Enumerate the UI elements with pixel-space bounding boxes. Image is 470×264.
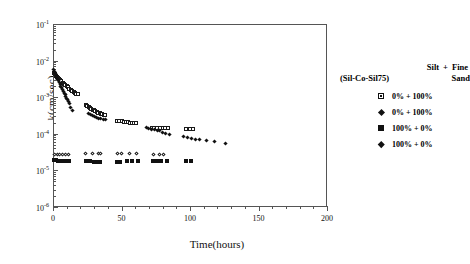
legend-item-2[interactable]: 100% + 0% <box>340 124 470 133</box>
legend-item-2-label: 100% + 0% <box>392 124 433 133</box>
y-tick-minor <box>53 174 56 175</box>
y-tick-label: 10-4 <box>36 129 49 140</box>
data-point-series-2 <box>189 159 193 163</box>
x-tick-major <box>190 206 191 211</box>
x-tick-minor <box>217 206 218 209</box>
data-point-series-2 <box>165 159 169 163</box>
y-tick-minor <box>53 185 56 186</box>
y-tick-minor <box>53 190 56 191</box>
x-tick-minor <box>313 206 314 209</box>
y-tick-label: 10-1 <box>36 19 49 30</box>
legend-header-row-2: (Sil-Co-Sil75) Sand <box>340 73 470 84</box>
legend-item-0-label: 0% + 100% <box>392 92 433 101</box>
filled-square-marker-icon <box>378 125 385 132</box>
x-tick-minor <box>204 206 205 209</box>
legend-item-3[interactable]: 100% + 0% <box>340 140 470 149</box>
y-tick-minor <box>53 148 56 149</box>
y-tick-label: 10-6 <box>36 202 49 213</box>
y-tick-minor <box>53 35 56 36</box>
data-point-series-2 <box>130 159 134 163</box>
data-point-series-3 <box>151 152 155 156</box>
y-tick-minor <box>53 62 56 63</box>
legend-item-1[interactable]: 0% + 100% <box>340 108 470 117</box>
data-point-series-2 <box>67 159 71 163</box>
x-tick-minor <box>272 206 273 209</box>
legend-item-1-label: 0% + 100% <box>392 108 433 117</box>
y-tick-minor <box>53 30 56 31</box>
y-tick-minor <box>53 43 56 44</box>
x-tick-minor <box>135 206 136 209</box>
x-tick-minor <box>149 206 150 209</box>
filled-diamond-small-marker-icon <box>378 141 385 148</box>
data-point-series-0 <box>134 121 138 125</box>
legend-header: Silt + Fine (Sil-Co-Sil75) Sand <box>340 62 470 85</box>
x-tick-minor <box>80 206 81 209</box>
y-tick-minor <box>53 176 56 177</box>
y-tick-minor <box>53 28 56 29</box>
y-tick-minor <box>53 108 56 109</box>
x-tick-major <box>53 206 54 211</box>
y-tick-minor <box>53 179 56 180</box>
data-point-series-0 <box>76 92 80 96</box>
data-point-series-2 <box>98 160 102 164</box>
y-tick-label: 10-2 <box>36 56 49 67</box>
legend-item-0[interactable]: 0% + 100% <box>340 92 470 101</box>
data-point-series-3 <box>66 152 70 156</box>
x-tick-minor <box>231 206 232 209</box>
x-tick-label: 0 <box>33 215 73 223</box>
y-tick-minor <box>53 181 56 182</box>
y-tick-minor <box>53 64 56 65</box>
x-tick-minor <box>176 206 177 209</box>
x-tick-minor <box>94 206 95 209</box>
legend-header-plus: + <box>443 62 448 73</box>
x-tick-minor <box>163 206 164 209</box>
data-point-series-2 <box>125 159 129 163</box>
legend-header-row-1: Silt + Fine <box>340 62 470 73</box>
x-tick-major <box>327 206 328 211</box>
y-tick-minor <box>53 39 56 40</box>
x-tick-minor <box>245 206 246 209</box>
y-tick-minor <box>53 103 56 104</box>
y-tick-minor <box>53 116 56 117</box>
y-tick-minor <box>53 145 56 146</box>
x-tick-minor <box>300 206 301 209</box>
y-tick-minor <box>53 86 56 87</box>
x-tick-minor <box>286 206 287 209</box>
y-tick-minor <box>53 172 56 173</box>
y-tick-label: 10-5 <box>36 165 49 176</box>
filled-diamond-marker-icon <box>378 109 385 116</box>
data-point-series-2 <box>159 159 163 163</box>
data-point-series-2 <box>184 159 188 163</box>
y-tick-minor <box>53 99 56 100</box>
legend-header-silcosil: (Sil-Co-Sil75) <box>340 73 389 84</box>
y-tick-minor <box>53 139 56 140</box>
data-point-series-0 <box>191 127 195 131</box>
data-point-series-2 <box>136 159 140 163</box>
x-tick-label: 100 <box>170 215 210 223</box>
y-tick-minor <box>53 50 56 51</box>
y-tick-minor <box>53 196 56 197</box>
x-tick-label: 200 <box>307 215 347 223</box>
y-tick-minor <box>53 101 56 102</box>
y-tick-label: 10-3 <box>36 92 49 103</box>
legend-header-silt: Silt <box>427 62 439 73</box>
y-tick-minor <box>53 32 56 33</box>
x-tick-minor <box>108 206 109 209</box>
y-tick-minor <box>53 112 56 113</box>
x-tick-label: 50 <box>102 215 142 223</box>
y-tick-minor <box>53 137 56 138</box>
figure-root: k(cm/sec) Time(hours) 10-110-210-310-410… <box>0 0 470 264</box>
y-tick-minor <box>53 26 56 27</box>
x-tick-major <box>259 206 260 211</box>
x-tick-label: 150 <box>239 215 279 223</box>
x-tick-major <box>122 206 123 211</box>
legend-header-sand: Sand <box>452 73 470 84</box>
y-tick-minor <box>53 123 56 124</box>
open-square-marker-icon <box>378 93 385 100</box>
legend-item-3-label: 100% + 0% <box>392 140 433 149</box>
data-point-series-0 <box>166 126 170 130</box>
data-point-series-2 <box>118 160 122 164</box>
y-tick-minor <box>53 135 56 136</box>
y-tick-minor <box>53 105 56 106</box>
x-axis-title: Time(hours) <box>137 238 297 250</box>
